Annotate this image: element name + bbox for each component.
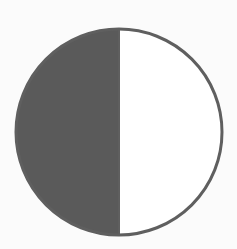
half-shaded-circle-figure: [0, 0, 237, 249]
diagram-canvas: [0, 0, 237, 249]
